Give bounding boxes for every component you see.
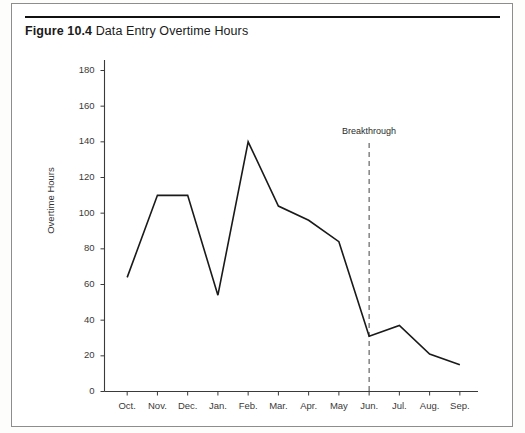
y-tick-label: 20 — [69, 349, 95, 360]
y-tick-label: 140 — [69, 135, 95, 146]
y-tick-label: 160 — [69, 100, 95, 111]
y-tick-label: 120 — [69, 171, 95, 182]
chart-container: Overtime Hours 020406080100120140160180 … — [0, 0, 525, 433]
page-background: Figure 10.4 Data Entry Overtime Hours Ov… — [0, 0, 525, 433]
y-axis-label: Overtime Hours — [45, 146, 56, 256]
x-axis-ticks — [127, 392, 460, 396]
y-tick-label: 180 — [69, 64, 95, 75]
y-tick-label: 60 — [69, 278, 95, 289]
y-tick-label: 40 — [69, 314, 95, 325]
breakthrough-annotation-label: Breakthrough — [324, 126, 414, 136]
overtime-hours-line — [127, 142, 460, 365]
y-axis-ticks — [101, 71, 105, 392]
y-tick-label: 0 — [69, 385, 95, 396]
y-tick-label: 100 — [69, 207, 95, 218]
x-tick-label: Sep. — [440, 400, 480, 411]
y-tick-label: 80 — [69, 242, 95, 253]
